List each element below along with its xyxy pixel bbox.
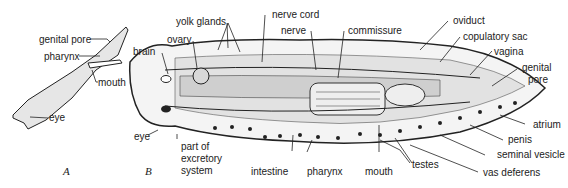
label-b-excretory-1: part of [181, 141, 209, 152]
label-b-copulatory-sac: copulatory sac [463, 31, 527, 42]
label-b-eye: eye [134, 131, 150, 142]
label-b-commissure: commissure [348, 25, 402, 36]
label-b-penis: penis [508, 134, 532, 145]
label-b-atrium: atrium [533, 119, 561, 130]
panel-b-worm [130, 40, 545, 144]
label-a-pharynx: pharynx [44, 51, 80, 62]
caption-a: A [63, 165, 70, 177]
label-b-testes: testes [412, 159, 439, 170]
label-b-pharynx: pharynx [307, 166, 343, 177]
label-b-nerve-cord: nerve cord [272, 9, 319, 20]
caption-b: B [145, 165, 152, 177]
label-b-genital-pore-1: genital [522, 62, 551, 73]
label-b-oviduct: oviduct [453, 15, 485, 26]
label-b-yolk-glands: yolk glands [176, 16, 226, 27]
label-b-genital-pore-2: pore [528, 74, 548, 85]
label-b-ovary: ovary [167, 34, 191, 45]
label-b-excretory-3: system [181, 165, 213, 176]
label-b-vas-deferens: vas deferens [483, 167, 540, 178]
label-b-intestine: intestine [251, 166, 288, 177]
label-b-nerve: nerve [281, 25, 306, 36]
label-a-genital-pore: genital pore [39, 34, 91, 45]
label-b-brain: brain [133, 46, 155, 57]
label-b-seminal-vesicle: seminal vesicle [497, 149, 565, 160]
label-b-vagina: vagina [494, 46, 523, 57]
label-a-eye: eye [49, 112, 65, 123]
label-a-mouth: mouth [98, 77, 126, 88]
label-b-mouth: mouth [365, 166, 393, 177]
label-b-excretory-2: excretory [181, 153, 222, 164]
